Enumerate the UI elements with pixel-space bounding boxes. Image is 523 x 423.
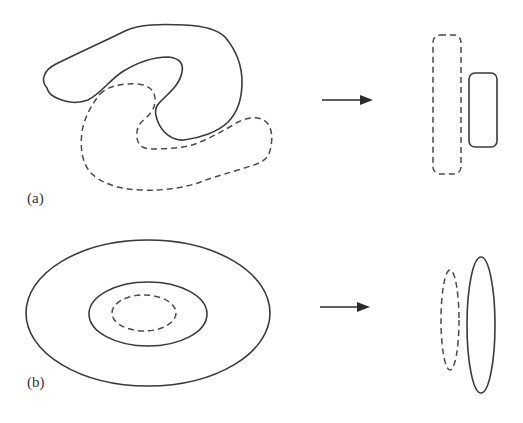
dashed-s-shape	[81, 84, 272, 190]
diagram-figure: (a) (b)	[0, 0, 523, 423]
solid-vertical-ellipse	[467, 257, 495, 393]
arrow-right-icon	[320, 302, 370, 312]
solid-s-shape	[44, 25, 242, 141]
panel-label-a: (a)	[27, 190, 44, 207]
panel-b: (b)	[26, 240, 495, 393]
dashed-vertical-ellipse	[441, 270, 459, 370]
solid-rounded-rect	[469, 73, 497, 147]
arrow-right-icon	[322, 95, 373, 105]
inner-dashed-ellipse	[112, 295, 176, 331]
dashed-rounded-rect	[433, 35, 461, 174]
middle-ellipse	[89, 282, 207, 346]
panel-a: (a)	[27, 25, 497, 207]
outer-ellipse	[26, 240, 270, 386]
panel-label-b: (b)	[27, 374, 45, 391]
